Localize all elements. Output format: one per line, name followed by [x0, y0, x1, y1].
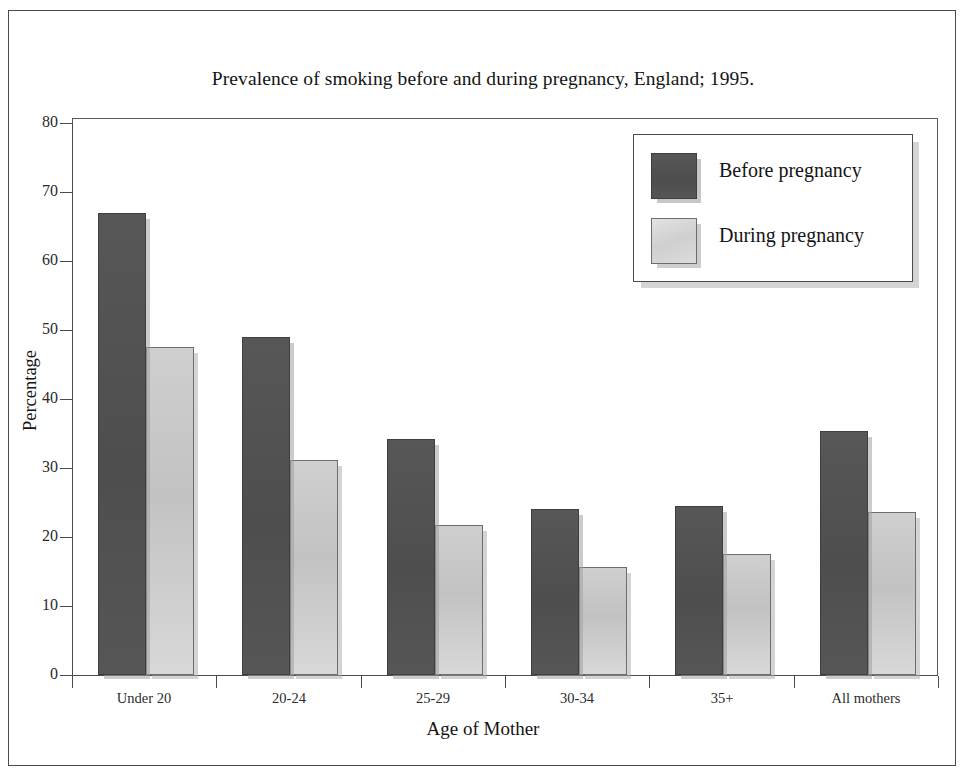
x-axis-category-label: 35+: [652, 690, 792, 707]
chart-legend: Before pregnancy During pregnancy: [633, 134, 913, 282]
y-axis-tick: [60, 468, 73, 469]
chart-title: Prevalence of smoking before and during …: [0, 68, 966, 90]
y-axis-tick-label: 0: [14, 665, 58, 683]
x-axis-category-label: 30-34: [507, 690, 647, 707]
bar-before-20-24: [242, 337, 290, 675]
x-axis-tick: [794, 676, 795, 688]
y-axis-tick-label: 50: [14, 320, 58, 338]
bar-before-35-: [675, 506, 723, 675]
bar-during-20-24: [290, 460, 338, 675]
x-axis-title: Age of Mother: [0, 718, 966, 740]
legend-label-during: During pregnancy: [719, 224, 864, 247]
x-axis-tick: [216, 676, 217, 688]
bar-during-35-: [723, 554, 771, 675]
y-axis-tick: [60, 537, 73, 538]
bar-during-30-34: [579, 567, 627, 675]
y-axis-tick-label: 20: [14, 527, 58, 545]
x-axis-category-label: Under 20: [74, 690, 214, 707]
y-axis-tick: [60, 330, 73, 331]
y-axis-tick-label: 80: [14, 113, 58, 131]
bar-during-25-29: [435, 525, 483, 675]
bar-during-under-20: [146, 347, 194, 675]
y-axis-tick: [60, 606, 73, 607]
x-axis-tick: [72, 676, 73, 688]
y-axis-tick: [60, 399, 73, 400]
y-axis-tick: [60, 261, 73, 262]
y-axis-tick-label: 10: [14, 596, 58, 614]
legend-swatch-during-icon: [651, 218, 697, 264]
y-axis-tick: [60, 123, 73, 124]
x-axis-tick: [938, 676, 939, 688]
x-axis-tick: [361, 676, 362, 688]
y-axis-tick-labels: 01020304050607080: [0, 0, 58, 780]
legend-swatch-before-icon: [651, 153, 697, 199]
bar-before-under-20: [98, 213, 146, 675]
x-axis-tick: [649, 676, 650, 688]
bar-before-25-29: [387, 439, 435, 675]
y-axis-tick-label: 60: [14, 251, 58, 269]
bar-before-all-mothers: [820, 431, 868, 675]
x-axis-category-label: 25-29: [363, 690, 503, 707]
x-axis-category-label: 20-24: [219, 690, 359, 707]
y-axis-tick-label: 70: [14, 182, 58, 200]
x-axis-tick: [505, 676, 506, 688]
bar-during-all-mothers: [868, 512, 916, 675]
y-axis-tick-label: 40: [14, 389, 58, 407]
legend-label-before: Before pregnancy: [719, 159, 862, 182]
y-axis-tick-label: 30: [14, 458, 58, 476]
y-axis-tick: [60, 192, 73, 193]
bar-before-30-34: [531, 509, 579, 675]
x-axis-category-label: All mothers: [796, 690, 936, 707]
